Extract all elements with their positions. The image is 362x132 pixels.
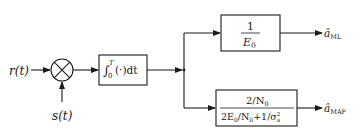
- input-label-r: r(t): [9, 64, 29, 78]
- ml-numerator: 1: [247, 20, 254, 33]
- output-label-map: âMAP: [324, 102, 347, 116]
- output-label-ml: âML: [324, 27, 342, 41]
- integrator-block: ∫ T 0 (·)dt: [99, 55, 147, 85]
- block-diagram: r(t) s(t) ∫ T 0 (·)dt 1 E0 âML: [0, 0, 362, 132]
- integrand: (·)dt: [115, 64, 138, 76]
- map-gain-block: 2/N0 2E0/N0+1/σ2a: [216, 90, 297, 126]
- multiplier-node: [51, 59, 73, 81]
- integral-lower-limit: 0: [108, 72, 112, 80]
- input-label-s: s(t): [52, 109, 73, 123]
- ml-gain-block: 1 E0: [221, 15, 280, 51]
